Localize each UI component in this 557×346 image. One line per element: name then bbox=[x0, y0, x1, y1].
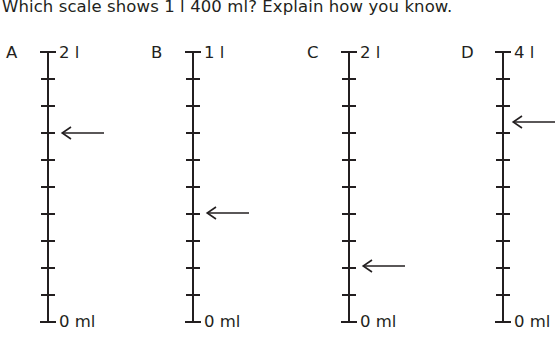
tick-mark bbox=[186, 213, 200, 215]
tick-mark bbox=[342, 105, 356, 107]
tick-mark bbox=[41, 294, 55, 296]
tick-mark bbox=[41, 213, 55, 215]
tick-mark bbox=[41, 186, 55, 188]
scale-bottom-label-c: 0 ml bbox=[360, 313, 396, 331]
tick-mark bbox=[496, 186, 510, 188]
tick-mark bbox=[496, 213, 510, 215]
tick-mark bbox=[342, 78, 356, 80]
scale-top-label-d: 4 l bbox=[514, 44, 534, 62]
scale-letter-c: C bbox=[307, 44, 319, 62]
tick-mark bbox=[186, 132, 200, 134]
scale-letter-d: D bbox=[461, 44, 474, 62]
tick-mark bbox=[186, 105, 200, 107]
tick-mark bbox=[496, 294, 510, 296]
tick-mark bbox=[41, 240, 55, 242]
left-arrow-icon bbox=[360, 258, 406, 274]
tick-mark bbox=[40, 321, 56, 323]
scale-top-label-a: 2 l bbox=[59, 44, 79, 62]
scale-letter-a: A bbox=[6, 44, 17, 62]
tick-mark bbox=[186, 267, 200, 269]
tick-mark bbox=[41, 132, 55, 134]
tick-mark bbox=[496, 132, 510, 134]
tick-mark bbox=[496, 240, 510, 242]
tick-mark bbox=[496, 267, 510, 269]
scale-bottom-label-b: 0 ml bbox=[204, 313, 240, 331]
tick-mark bbox=[185, 51, 201, 53]
tick-mark bbox=[342, 213, 356, 215]
tick-mark bbox=[496, 78, 510, 80]
tick-mark bbox=[495, 51, 511, 53]
tick-mark bbox=[41, 78, 55, 80]
scale-option-a: A 2 l 0 ml bbox=[0, 0, 150, 346]
scale-option-c: C 2 l 0 ml bbox=[301, 0, 451, 346]
scale-top-label-c: 2 l bbox=[360, 44, 380, 62]
scale-option-b: B 1 l 0 ml bbox=[145, 0, 295, 346]
scale-option-d: D 4 l 0 ml bbox=[455, 0, 557, 346]
tick-mark bbox=[41, 159, 55, 161]
tick-mark bbox=[186, 294, 200, 296]
tick-mark bbox=[342, 240, 356, 242]
tick-mark bbox=[186, 240, 200, 242]
scale-bottom-label-a: 0 ml bbox=[59, 313, 95, 331]
tick-mark bbox=[41, 267, 55, 269]
tick-mark bbox=[40, 51, 56, 53]
scale-letter-b: B bbox=[151, 44, 162, 62]
tick-mark bbox=[186, 78, 200, 80]
scale-top-label-b: 1 l bbox=[204, 44, 224, 62]
left-arrow-icon bbox=[204, 205, 250, 221]
tick-mark bbox=[41, 105, 55, 107]
tick-mark bbox=[342, 186, 356, 188]
tick-mark bbox=[496, 159, 510, 161]
tick-mark bbox=[342, 132, 356, 134]
tick-mark bbox=[341, 51, 357, 53]
tick-mark bbox=[342, 294, 356, 296]
tick-mark bbox=[342, 159, 356, 161]
tick-mark bbox=[341, 321, 357, 323]
tick-mark bbox=[496, 105, 510, 107]
left-arrow-icon bbox=[59, 125, 105, 141]
tick-mark bbox=[495, 321, 511, 323]
tick-mark bbox=[342, 267, 356, 269]
left-arrow-icon bbox=[510, 114, 556, 130]
tick-mark bbox=[186, 159, 200, 161]
tick-mark bbox=[186, 186, 200, 188]
scale-bottom-label-d: 0 ml bbox=[514, 313, 550, 331]
tick-mark bbox=[185, 321, 201, 323]
